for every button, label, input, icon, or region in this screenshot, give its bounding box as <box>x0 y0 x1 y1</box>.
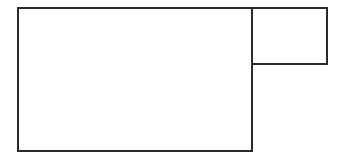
diagram-canvas <box>0 0 342 160</box>
small-rectangle <box>251 7 328 65</box>
large-rectangle <box>17 7 253 152</box>
